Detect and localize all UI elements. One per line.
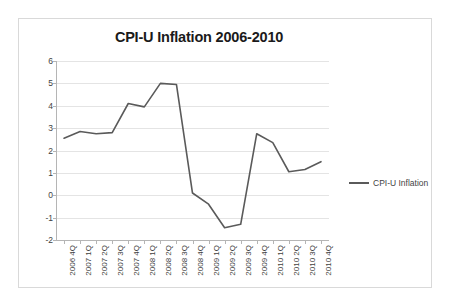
y-tick-label: -2 — [45, 235, 53, 245]
chart-legend: CPI-U Inflation — [349, 178, 428, 188]
x-tick-label: 2008 4Q — [196, 245, 205, 276]
x-tick-mark — [321, 240, 322, 244]
x-tick-label: 2008 1Q — [148, 245, 157, 276]
x-tick-label: 2009 3Q — [244, 245, 253, 276]
y-tick-mark — [53, 61, 56, 62]
x-tick-label: 2008 3Q — [180, 245, 189, 276]
y-tick-label: -1 — [45, 213, 53, 223]
x-tick-mark — [225, 240, 226, 244]
x-tick-mark — [257, 240, 258, 244]
y-tick-mark — [53, 195, 56, 196]
x-tick-mark — [176, 240, 177, 244]
chart-title: CPI-U Inflation 2006-2010 — [59, 29, 339, 45]
x-tick-label: 2006 4Q — [68, 245, 77, 276]
legend-label: CPI-U Inflation — [373, 178, 428, 188]
x-tick-mark — [144, 240, 145, 244]
x-tick-label: 2008 2Q — [164, 245, 173, 276]
y-tick-mark — [53, 151, 56, 152]
y-tick-mark — [53, 218, 56, 219]
x-tick-mark — [112, 240, 113, 244]
x-tick-mark — [193, 240, 194, 244]
x-tick-label: 2010 4Q — [324, 245, 333, 276]
y-tick-mark — [53, 83, 56, 84]
y-tick-mark — [53, 173, 56, 174]
x-tick-mark — [64, 240, 65, 244]
x-tick-label: 2007 2Q — [100, 245, 109, 276]
y-axis-labels: 6543210-1-2 — [37, 61, 53, 240]
x-tick-label: 2010 1Q — [276, 245, 285, 276]
x-tick-mark — [305, 240, 306, 244]
x-tick-mark — [160, 240, 161, 244]
plot-area — [56, 61, 329, 240]
y-tick-mark — [53, 128, 56, 129]
y-tick-mark — [53, 106, 56, 107]
x-tick-label: 2007 1Q — [84, 245, 93, 276]
x-tick-label: 2007 4Q — [132, 245, 141, 276]
x-axis-labels: 2006 4Q2007 1Q2007 2Q2007 3Q2007 4Q2008 … — [56, 245, 329, 302]
x-tick-label: 2009 2Q — [228, 245, 237, 276]
x-tick-label: 2010 2Q — [292, 245, 301, 276]
legend-line-swatch — [349, 182, 369, 184]
x-tick-label: 2009 1Q — [212, 245, 221, 276]
chart-frame: CPI-U Inflation 2006-2010 6543210-1-2 20… — [18, 18, 432, 288]
x-tick-mark — [128, 240, 129, 244]
x-tick-mark — [273, 240, 274, 244]
x-tick-label: 2007 3Q — [116, 245, 125, 276]
x-tick-mark — [209, 240, 210, 244]
x-tick-mark — [80, 240, 81, 244]
x-tick-label: 2009 4Q — [260, 245, 269, 276]
x-tick-mark — [241, 240, 242, 244]
x-tick-mark — [96, 240, 97, 244]
x-tick-mark — [289, 240, 290, 244]
series-line-cpi-u-inflation — [56, 61, 329, 240]
x-tick-label: 2010 3Q — [308, 245, 317, 276]
